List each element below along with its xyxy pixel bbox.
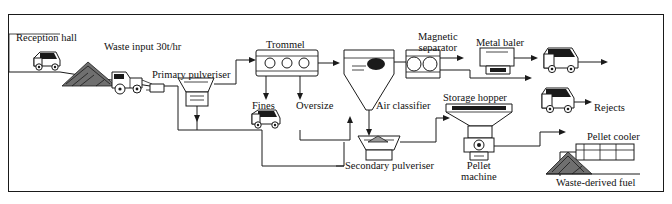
label-waste-derived-fuel: Waste-derived fuel <box>556 177 635 188</box>
label-fines: Fines <box>252 100 275 111</box>
trommel-icon <box>256 50 340 100</box>
label-rejects: Rejects <box>594 102 625 113</box>
fines-truck-icon <box>252 110 280 128</box>
process-flow-artwork <box>0 0 672 204</box>
label-reception-hall: Reception hall <box>16 32 77 43</box>
label-magnetic-separator: Magnetic separator <box>418 31 458 53</box>
baled-metal-truck-icon <box>544 48 608 73</box>
secondary-pulveriser-icon <box>336 115 450 166</box>
label-storage-hopper: Storage hopper <box>443 92 507 103</box>
metal-baler-icon <box>480 48 538 74</box>
storage-hopper-icon <box>446 104 512 138</box>
rejects-truck-icon <box>542 88 592 113</box>
truck-reception-icon <box>34 52 60 70</box>
label-oversize: Oversize <box>296 100 333 111</box>
label-pellet-machine: Pellet machine <box>461 160 497 182</box>
label-waste-input: Waste input 30t/hr <box>104 41 181 52</box>
label-air-classifier: Air classifier <box>376 100 431 111</box>
label-trommel: Trommel <box>266 39 305 50</box>
primary-pulveriser-icon <box>178 57 262 130</box>
label-secondary-pulveriser: Secondary pulveriser <box>345 160 434 171</box>
diagram-canvas: Reception hall Waste input 30t/hr Primar… <box>0 0 672 204</box>
air-classifier-icon <box>344 50 408 136</box>
label-primary-pulveriser: Primary pulveriser <box>152 69 230 80</box>
label-metal-baler: Metal baler <box>476 37 524 48</box>
label-pellet-cooler: Pellet cooler <box>587 131 640 142</box>
